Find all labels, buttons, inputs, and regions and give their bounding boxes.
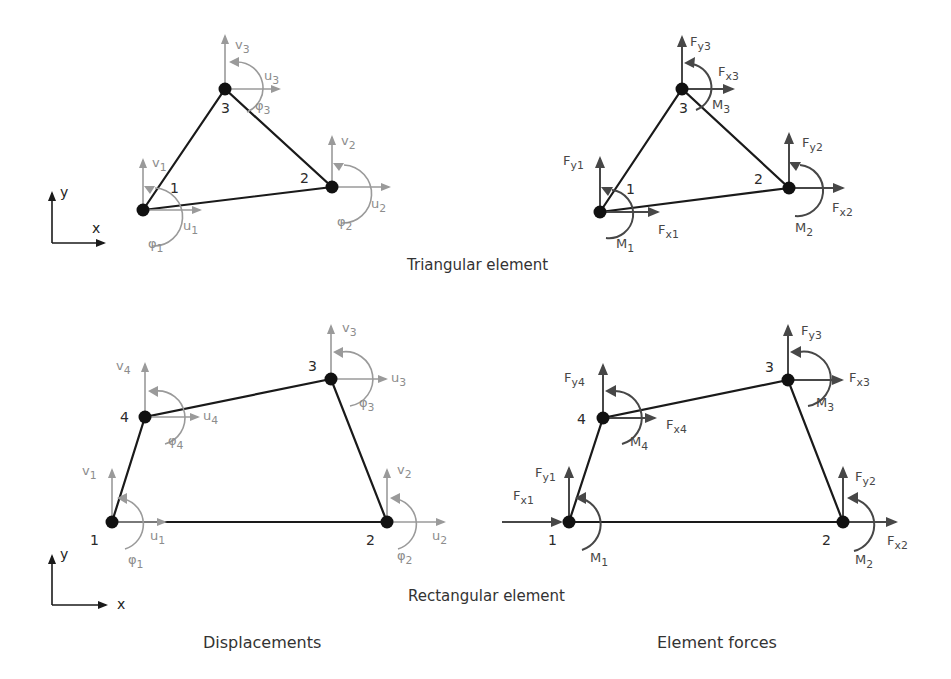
- node-label: 3: [221, 100, 230, 116]
- node-4-dofs: [145, 364, 198, 444]
- axis-x-label: x: [117, 596, 125, 612]
- moment-label-m1: M1: [616, 236, 634, 255]
- node-4: [597, 412, 610, 425]
- node-label: 4: [120, 409, 129, 425]
- dof-label-v1: v1: [152, 155, 167, 174]
- dof-label-phi4: φ4: [168, 433, 183, 452]
- dof-label-u1: u1: [183, 218, 198, 237]
- node-3: [782, 374, 795, 387]
- quad-element-edges: [112, 379, 387, 522]
- dof-label-u2: u2: [371, 196, 386, 215]
- node-label: 1: [90, 532, 99, 548]
- force-label-fy2: Fy2: [855, 469, 876, 488]
- axis-y-label: y: [60, 184, 68, 200]
- force-label-fx2: Fx2: [887, 533, 908, 552]
- dof-label-phi1: φ1: [128, 552, 143, 571]
- force-label-fx3: Fx3: [718, 64, 739, 83]
- node-1: [137, 204, 150, 217]
- dof-label-v1: v1: [82, 463, 97, 482]
- dof-label-phi2: φ2: [337, 214, 352, 233]
- moment-label-m4: M4: [630, 434, 648, 453]
- moment-label-m2: M2: [855, 552, 873, 571]
- node-2: [783, 182, 796, 195]
- node-label: 2: [822, 532, 831, 548]
- node-label: 4: [577, 411, 586, 427]
- dof-label-u3: u3: [391, 370, 406, 389]
- moment-label-m1: M1: [590, 550, 608, 569]
- dof-label-phi3: φ3: [359, 395, 374, 414]
- quad-displacements-panel: [52, 326, 444, 605]
- node-2: [381, 516, 394, 529]
- caption-rectangular: Rectangular element: [408, 587, 565, 605]
- force-label-fy1: Fy1: [563, 153, 584, 172]
- node-3: [325, 373, 338, 386]
- dof-label-v2: v2: [341, 133, 356, 152]
- moment-label-m3: M3: [712, 97, 730, 116]
- axis-y-label: y: [60, 546, 68, 562]
- caption-triangular: Triangular element: [407, 256, 548, 274]
- dof-label-phi2: φ2: [397, 548, 412, 567]
- node-4-forces: [603, 365, 655, 444]
- force-label-fx1: Fx1: [658, 222, 679, 241]
- node-label: 1: [626, 181, 635, 197]
- node-3: [676, 83, 689, 96]
- node-label: 1: [548, 532, 557, 548]
- node-2: [837, 516, 850, 529]
- force-label-fx2: Fx2: [832, 200, 853, 219]
- force-label-fx1: Fx1: [513, 488, 534, 507]
- node-label: 2: [754, 171, 763, 187]
- dof-label-phi3: φ3: [255, 98, 270, 117]
- node-label: 3: [765, 359, 774, 375]
- force-label-fx4: Fx4: [666, 417, 687, 436]
- node-label: 3: [308, 358, 317, 374]
- dof-label-v4: v4: [116, 358, 131, 377]
- node-4: [139, 411, 152, 424]
- dof-label-u1: u1: [150, 528, 165, 547]
- force-label-fx3: Fx3: [849, 370, 870, 389]
- node-1: [563, 516, 576, 529]
- dof-label-u4: u4: [203, 408, 218, 427]
- force-label-fy4: Fy4: [564, 370, 585, 389]
- force-label-fy3: Fy3: [801, 323, 822, 342]
- axis-indicator-bottom: [52, 556, 106, 605]
- moment-label-m3: M3: [816, 395, 834, 414]
- node-label: 2: [366, 532, 375, 548]
- quad-forces-panel: [502, 326, 896, 551]
- node-1: [594, 206, 607, 219]
- dof-label-u2: u2: [432, 528, 447, 547]
- node-label: 3: [679, 100, 688, 116]
- force-label-fy3: Fy3: [690, 34, 711, 53]
- moment-label-m2: M2: [795, 220, 813, 239]
- axis-x-label: x: [92, 220, 100, 236]
- dof-label-phi1: φ1: [148, 236, 163, 255]
- node-2: [326, 181, 339, 194]
- dof-label-v3: v3: [235, 37, 250, 56]
- column-label-element-forces: Element forces: [657, 633, 777, 652]
- dof-label-u3: u3: [264, 68, 279, 87]
- dof-label-v2: v2: [397, 462, 412, 481]
- node-3: [219, 83, 232, 96]
- node-1: [106, 516, 119, 529]
- column-label-displacements: Displacements: [203, 633, 321, 652]
- node-label: 1: [170, 180, 179, 196]
- dof-label-v3: v3: [342, 320, 357, 339]
- node-label: 2: [300, 170, 309, 186]
- force-label-fy1: Fy1: [535, 465, 556, 484]
- force-label-fy2: Fy2: [802, 135, 823, 154]
- node-3-dofs: [331, 326, 386, 406]
- quad-element-edges: [569, 380, 843, 522]
